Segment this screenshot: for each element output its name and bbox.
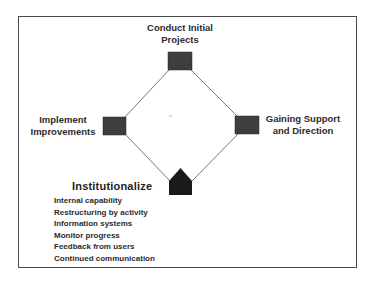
node-top-label: Conduct Initial Projects bbox=[138, 22, 222, 45]
node-right-label-line2: and Direction bbox=[260, 125, 346, 137]
list-item: Continued communication bbox=[54, 253, 155, 265]
diamond-connectors bbox=[125, 70, 238, 181]
node-top-label-line2: Projects bbox=[138, 34, 222, 46]
node-left-label: Implement Improvements bbox=[26, 114, 100, 137]
node-left-label-line1: Implement bbox=[26, 114, 100, 126]
list-item: Feedback from users bbox=[54, 241, 155, 253]
list-item: Information systems bbox=[54, 218, 155, 230]
node-top-label-line1: Conduct Initial bbox=[138, 22, 222, 34]
list-item: Restructuring by activity bbox=[54, 207, 155, 219]
institutionalize-items: Internal capability Restructuring by act… bbox=[54, 195, 155, 265]
node-right-label-line1: Gaining Support bbox=[260, 113, 346, 125]
node-bottom-title: Institutionalize bbox=[72, 180, 152, 192]
node-right-square bbox=[235, 116, 259, 134]
node-left-square bbox=[103, 117, 126, 135]
list-item: Internal capability bbox=[54, 195, 155, 207]
node-left-label-line2: Improvements bbox=[26, 126, 100, 138]
connector-bottom-left bbox=[125, 134, 170, 181]
node-bottom-pentagon bbox=[169, 168, 192, 195]
connector-left-top bbox=[125, 70, 169, 117]
connector-right-bottom bbox=[192, 134, 238, 181]
list-item: Monitor progress bbox=[54, 230, 155, 242]
node-right-label: Gaining Support and Direction bbox=[260, 113, 346, 136]
node-top-square bbox=[168, 52, 192, 70]
scan-artifact-dot bbox=[169, 115, 172, 117]
connector-top-right bbox=[191, 70, 238, 117]
